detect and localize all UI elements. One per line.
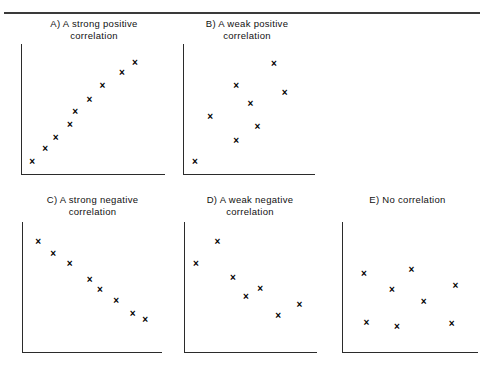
x-cross-marker: × (232, 80, 241, 91)
correlation-scatterplot-figure: A) A strong positive correlation ×××××××… (0, 0, 496, 370)
panel-b-x-axis (183, 174, 315, 175)
x-cross-marker: × (34, 236, 43, 247)
x-cross-marker: × (65, 258, 74, 269)
panel-e-title: E) No correlation (336, 194, 479, 206)
x-cross-marker: × (232, 135, 241, 146)
panel-d: D) A weak negative correlation ××××××× (184, 194, 318, 354)
panel-d-x-axis (184, 352, 317, 353)
x-cross-marker: × (65, 119, 74, 130)
x-cross-marker: × (419, 296, 428, 307)
panel-c: C) A strong negative correlation ×××××××… (22, 194, 163, 354)
x-cross-marker: × (98, 80, 107, 91)
x-cross-marker: × (190, 156, 199, 167)
x-cross-marker: × (95, 284, 104, 295)
x-cross-marker: × (117, 67, 126, 78)
panel-e: E) No correlation ×××××××× (342, 194, 479, 354)
panel-e-plot-area: ×××××××× (342, 222, 478, 353)
panel-a-title: A) A strong positive correlation (21, 18, 167, 41)
x-cross-marker: × (49, 248, 58, 259)
x-cross-marker: × (274, 310, 283, 321)
x-cross-marker: × (451, 280, 460, 291)
x-cross-marker: × (71, 106, 80, 117)
panel-d-y-axis (184, 222, 185, 353)
x-cross-marker: × (228, 272, 237, 283)
x-cross-marker: × (280, 87, 289, 98)
x-cross-marker: × (130, 57, 139, 68)
panel-d-title: D) A weak negative correlation (180, 194, 320, 217)
panel-b: B) A weak positive correlation ×××××××× (183, 18, 317, 176)
panel-c-y-axis (22, 222, 23, 353)
x-cross-marker: × (246, 98, 255, 109)
x-cross-marker: × (128, 308, 137, 319)
panel-b-y-axis (183, 44, 184, 175)
x-cross-marker: × (241, 291, 250, 302)
panel-e-y-axis (342, 222, 343, 353)
x-cross-marker: × (41, 143, 50, 154)
x-cross-marker: × (28, 156, 37, 167)
x-cross-marker: × (387, 284, 396, 295)
x-cross-marker: × (191, 258, 200, 269)
panel-b-plot-area: ×××××××× (183, 44, 315, 175)
x-cross-marker: × (392, 321, 401, 332)
x-cross-marker: × (253, 121, 262, 132)
x-cross-marker: × (407, 264, 416, 275)
panel-d-plot-area: ××××××× (184, 222, 317, 353)
header-divider-rule (4, 12, 480, 14)
panel-c-x-axis (22, 352, 162, 353)
panel-c-title: C) A strong negative correlation (22, 194, 163, 217)
panel-a: A) A strong positive correlation ×××××××… (21, 18, 167, 176)
x-cross-marker: × (206, 111, 215, 122)
panel-a-x-axis (21, 174, 165, 175)
panel-a-y-axis (21, 44, 22, 175)
x-cross-marker: × (85, 274, 94, 285)
panel-c-plot-area: ×××××××× (22, 222, 162, 353)
x-cross-marker: × (295, 299, 304, 310)
panel-e-x-axis (342, 352, 478, 353)
x-cross-marker: × (112, 295, 121, 306)
x-cross-marker: × (359, 268, 368, 279)
x-cross-marker: × (51, 132, 60, 143)
x-cross-marker: × (213, 236, 222, 247)
panel-a-plot-area: ××××××××× (21, 44, 165, 175)
x-cross-marker: × (362, 317, 371, 328)
x-cross-marker: × (256, 283, 265, 294)
x-cross-marker: × (447, 318, 456, 329)
x-cross-marker: × (141, 314, 150, 325)
x-cross-marker: × (269, 58, 278, 69)
panel-b-title: B) A weak positive correlation (177, 18, 317, 41)
x-cross-marker: × (85, 94, 94, 105)
